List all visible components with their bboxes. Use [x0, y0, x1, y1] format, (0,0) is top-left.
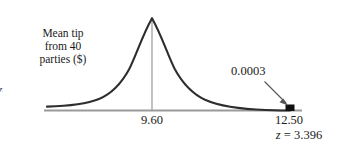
z-variable-value: = 3.396 — [284, 128, 322, 142]
annotation-arrow-head — [280, 99, 289, 106]
z-variable-symbol: z — [276, 128, 281, 142]
tail-probability-label: 0.0003 — [231, 64, 265, 78]
x-tick-label-mean: 9.60 — [129, 113, 175, 127]
normal-distribution-figure: z Mean tip from 40 parties ($) 0.0003 9.… — [0, 0, 337, 156]
z-score-label: z = 3.396 — [268, 128, 330, 142]
tail-region-marker — [286, 105, 295, 112]
x-tick-label-critical: 12.50 — [264, 113, 314, 127]
curve-description-label: Mean tip from 40 parties ($) — [31, 27, 95, 66]
